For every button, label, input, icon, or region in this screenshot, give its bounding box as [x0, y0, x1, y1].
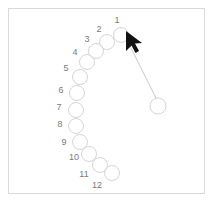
node-label-7: 7: [56, 103, 61, 112]
diagram-canvas: 1 2 3 4 5 6 7 8 9 10 11 12: [0, 0, 215, 203]
node-label-10: 10: [69, 153, 79, 162]
node-label-9: 9: [61, 138, 66, 147]
connector-line: [129, 44, 156, 98]
node-circle-2[interactable]: [100, 35, 115, 50]
node-circle-10[interactable]: [82, 147, 97, 162]
node-circle-8[interactable]: [69, 119, 84, 134]
node-circle-7[interactable]: [69, 103, 84, 118]
node-label-5: 5: [63, 64, 68, 73]
node-label-2: 2: [96, 25, 101, 34]
node-circle-target[interactable]: [150, 98, 166, 114]
node-label-6: 6: [58, 86, 63, 95]
node-label-1: 1: [114, 16, 119, 25]
node-circle-4[interactable]: [80, 55, 95, 70]
node-circle-5[interactable]: [73, 70, 88, 85]
node-circle-3[interactable]: [89, 44, 104, 59]
node-label-4: 4: [72, 48, 77, 57]
node-label-3: 3: [84, 35, 89, 44]
node-circle-12[interactable]: [105, 166, 120, 181]
diagram-svg: [0, 0, 215, 203]
node-circle-6[interactable]: [70, 86, 85, 101]
node-label-11: 11: [79, 170, 88, 179]
node-label-12: 12: [92, 181, 102, 190]
mouse-cursor-icon: [126, 31, 142, 53]
node-label-8: 8: [57, 120, 62, 129]
